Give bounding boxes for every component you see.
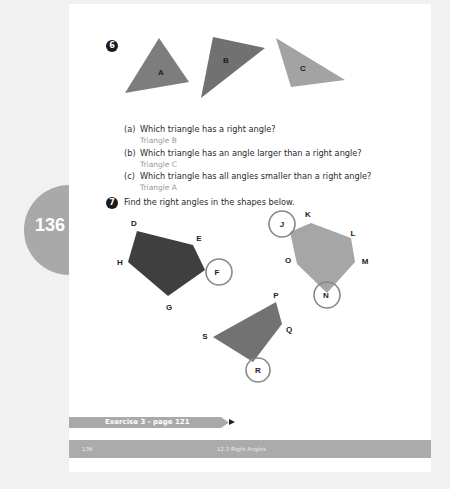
figures: A B C D E F G H J K L M N O P Q R S bbox=[0, 0, 450, 489]
vertex-j: J bbox=[280, 220, 284, 229]
triangle-b-label: B bbox=[223, 56, 229, 65]
q6c-question: Which triangle has all angles smaller th… bbox=[140, 171, 371, 181]
vertex-f: F bbox=[215, 268, 220, 277]
q6c-answer: Triangle A bbox=[140, 183, 177, 192]
triangle-c bbox=[276, 38, 345, 87]
q6a-answer: Triangle B bbox=[140, 136, 177, 145]
vertex-e: E bbox=[196, 234, 202, 243]
footer-chapter-title: 12.3 Right Angles bbox=[217, 440, 266, 458]
triangle-a bbox=[125, 38, 189, 93]
vertex-q: Q bbox=[286, 325, 292, 334]
vertex-s: S bbox=[202, 332, 208, 341]
question-7-instruction: Find the right angles in the shapes belo… bbox=[124, 197, 295, 207]
vertex-g: G bbox=[166, 303, 172, 312]
triangle-b bbox=[201, 37, 265, 98]
question-7-badge: 7 bbox=[106, 197, 118, 209]
q6a-letter: (a) bbox=[124, 124, 135, 134]
vertex-m: M bbox=[362, 257, 369, 266]
vertex-l: L bbox=[351, 229, 356, 238]
arrow-right-icon bbox=[229, 419, 235, 425]
q6b-letter: (b) bbox=[124, 148, 136, 158]
vertex-n: N bbox=[323, 291, 329, 300]
vertex-o: O bbox=[285, 256, 291, 265]
vertex-h: H bbox=[117, 258, 123, 267]
triangle-c-label: C bbox=[300, 64, 306, 73]
footer-page-number: 136 bbox=[82, 440, 93, 458]
vertex-r: R bbox=[255, 366, 261, 375]
exercise-link-label[interactable]: Exercise 3 - page 121 bbox=[105, 417, 190, 428]
vertex-p: P bbox=[273, 291, 279, 300]
pentagon-defgh bbox=[128, 231, 205, 296]
q6c-letter: (c) bbox=[124, 171, 135, 181]
triangle-a-label: A bbox=[158, 68, 164, 77]
quadrilateral-pqrs bbox=[213, 302, 282, 362]
vertex-k: K bbox=[305, 210, 311, 219]
q6a-question: Which triangle has a right angle? bbox=[140, 124, 276, 134]
vertex-d: D bbox=[131, 219, 137, 228]
q6b-answer: Triangle C bbox=[140, 160, 177, 169]
q6b-question: Which triangle has an angle larger than … bbox=[140, 148, 362, 158]
